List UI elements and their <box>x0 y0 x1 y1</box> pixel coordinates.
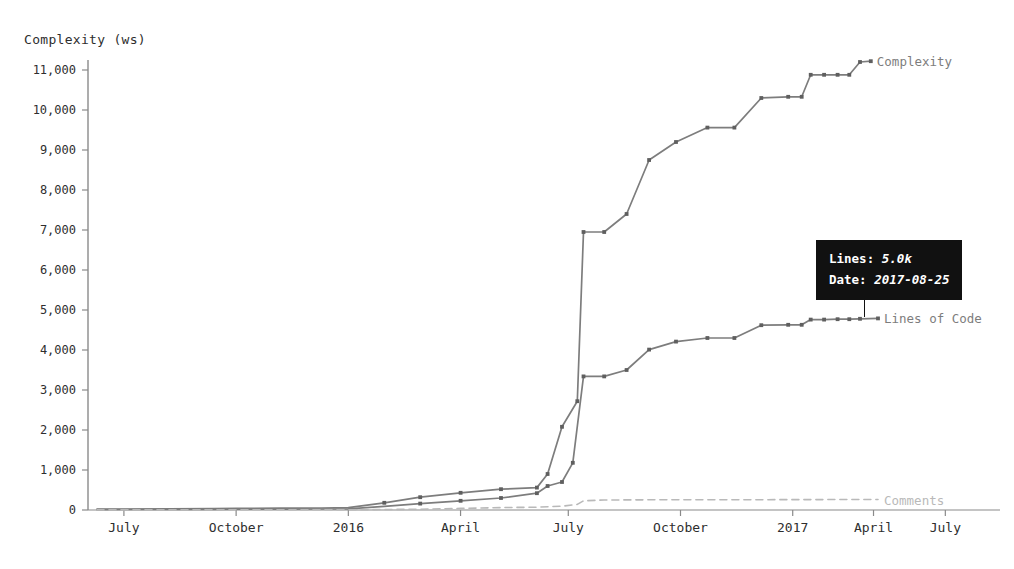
data-point-marker <box>560 425 564 429</box>
data-point-marker <box>647 158 651 162</box>
y-tick-label: 9,000 <box>0 143 76 157</box>
data-point-marker <box>733 336 737 340</box>
data-point-marker <box>836 73 840 77</box>
tooltip-lines-value: 5.0k <box>882 251 912 266</box>
data-point-marker <box>847 73 851 77</box>
y-tick-label: 3,000 <box>0 383 76 397</box>
x-tick-label: July <box>108 520 139 535</box>
data-point-marker <box>706 336 710 340</box>
data-point-marker <box>822 318 826 322</box>
series-label-lines-of-code: Lines of Code <box>884 311 982 326</box>
y-tick-label: 1,000 <box>0 463 76 477</box>
y-tick-label: 8,000 <box>0 183 76 197</box>
data-point-marker <box>535 486 539 490</box>
data-point-marker <box>858 60 862 64</box>
series-label-comments: Comments <box>884 492 944 507</box>
data-point-marker <box>499 487 503 491</box>
x-tick-label: July <box>553 520 584 535</box>
y-tick-label: 10,000 <box>0 103 76 117</box>
data-tooltip: Lines: 5.0k Date: 2017-08-25 <box>816 240 962 300</box>
data-point-marker <box>418 495 422 499</box>
x-tick-label: 2016 <box>333 520 364 535</box>
x-tick-label: April <box>854 520 893 535</box>
data-point-marker <box>582 375 586 379</box>
data-point-marker <box>459 491 463 495</box>
data-point-marker <box>602 375 606 379</box>
data-point-marker <box>786 323 790 327</box>
tooltip-pointer <box>864 300 865 317</box>
y-tick-label: 7,000 <box>0 223 76 237</box>
y-tick-label: 0 <box>0 503 76 517</box>
data-point-marker <box>800 95 804 99</box>
data-point-marker <box>809 318 813 322</box>
y-tick-label: 2,000 <box>0 423 76 437</box>
data-point-marker <box>869 59 873 63</box>
data-point-marker <box>560 480 564 484</box>
data-point-marker <box>382 501 386 505</box>
data-point-marker <box>759 96 763 100</box>
x-tick-label: October <box>653 520 708 535</box>
data-point-marker <box>535 491 539 495</box>
data-point-marker <box>836 317 840 321</box>
data-point-marker <box>800 323 804 327</box>
data-point-marker <box>847 317 851 321</box>
y-tick-label: 5,000 <box>0 303 76 317</box>
data-point-marker <box>602 230 606 234</box>
data-point-marker <box>733 126 737 130</box>
data-point-marker <box>647 348 651 352</box>
series-line-complexity <box>97 61 871 509</box>
tooltip-lines-row: Lines: 5.0k <box>829 249 949 270</box>
data-point-marker <box>822 73 826 77</box>
x-tick-label: July <box>930 520 961 535</box>
data-point-marker <box>571 461 575 465</box>
data-point-marker <box>876 317 880 321</box>
tooltip-date-value: 2017-08-25 <box>874 272 949 287</box>
data-point-marker <box>858 317 862 321</box>
data-point-marker <box>499 496 503 500</box>
data-point-marker <box>418 502 422 506</box>
data-point-marker <box>625 212 629 216</box>
x-tick-label: April <box>441 520 480 535</box>
data-point-marker <box>674 140 678 144</box>
series-label-complexity: Complexity <box>877 54 952 69</box>
data-point-marker <box>582 230 586 234</box>
data-point-marker <box>575 399 579 403</box>
data-point-marker <box>706 126 710 130</box>
y-tick-label: 11,000 <box>0 63 76 77</box>
data-point-marker <box>759 323 763 327</box>
complexity-chart: Complexity (ws) 01,0002,0003,0004,0005,0… <box>0 0 1014 569</box>
data-point-marker <box>546 484 550 488</box>
data-point-marker <box>786 95 790 99</box>
data-point-marker <box>809 73 813 77</box>
data-point-marker <box>546 472 550 476</box>
y-tick-label: 6,000 <box>0 263 76 277</box>
x-tick-label: October <box>209 520 264 535</box>
data-point-marker <box>674 340 678 344</box>
tooltip-lines-key: Lines: <box>829 251 874 266</box>
y-tick-label: 4,000 <box>0 343 76 357</box>
tooltip-date-row: Date: 2017-08-25 <box>829 270 949 291</box>
tooltip-date-key: Date: <box>829 272 867 287</box>
series-line-lines-of-code <box>97 318 878 509</box>
x-tick-label: 2017 <box>777 520 808 535</box>
data-point-marker <box>459 499 463 503</box>
data-point-marker <box>625 368 629 372</box>
